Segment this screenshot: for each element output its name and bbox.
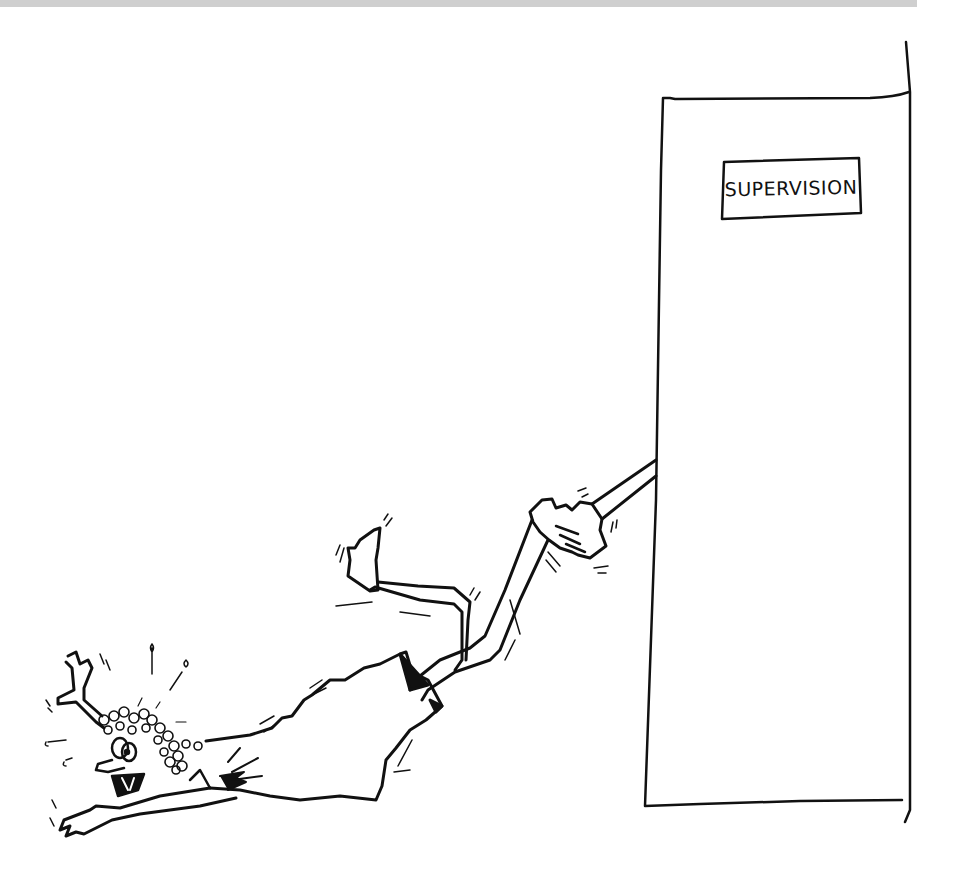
door-sign-text: SUPERVISION [726, 170, 857, 206]
dragged-arm [410, 520, 548, 700]
reaching-arm [50, 748, 262, 836]
wall-line [905, 42, 910, 822]
leg-and-shoe [336, 514, 480, 670]
cartoon-drawing [0, 0, 954, 870]
pulling-arm [530, 460, 656, 573]
curly-hair [99, 698, 202, 774]
wall-and-door [645, 42, 910, 822]
